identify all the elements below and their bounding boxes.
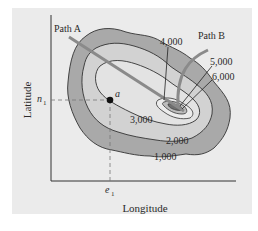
label-5000: 5,000 bbox=[210, 56, 233, 67]
n1-label: n bbox=[37, 93, 42, 104]
x-axis-title: Longitude bbox=[122, 202, 167, 214]
e1-label: e bbox=[105, 184, 110, 195]
e1-subscript: 1 bbox=[111, 190, 115, 198]
label-2000: 2,000 bbox=[166, 135, 189, 146]
label-4000: 4,000 bbox=[160, 36, 183, 47]
label-3000: 3,000 bbox=[130, 114, 153, 125]
n1-subscript: 1 bbox=[43, 99, 47, 107]
label-6000: 6,000 bbox=[212, 71, 235, 82]
path-a-label: Path A bbox=[54, 23, 82, 34]
label-1000: 1,000 bbox=[154, 151, 177, 162]
point-a bbox=[107, 97, 114, 104]
contour-map: a 4,000 5,000 6,000 3,000 2,000 1,000 Pa… bbox=[0, 0, 258, 231]
path-b-label: Path B bbox=[198, 30, 225, 41]
point-a-label: a bbox=[115, 88, 120, 99]
y-axis-title: Latitude bbox=[21, 82, 33, 119]
